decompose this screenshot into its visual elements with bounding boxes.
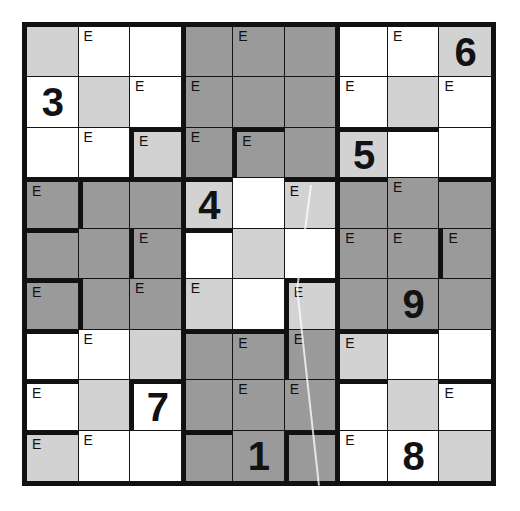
sudoku-cell-r3c2[interactable]: E xyxy=(79,128,131,178)
sudoku-cell-r8c1[interactable]: E xyxy=(27,380,79,430)
puzzle-page: EEE63EEEEEEEE5E4EEEEEEEEEE9EEEEE7EEEEE1E… xyxy=(0,0,520,511)
sudoku-cell-r8c9[interactable]: E xyxy=(439,380,491,430)
cell-mark-r9c2: E xyxy=(84,433,93,447)
cell-mark-r7c2: E xyxy=(84,332,93,346)
sudoku-cell-r4c2[interactable] xyxy=(79,178,131,228)
sudoku-cell-r1c8[interactable]: E xyxy=(388,27,440,77)
sudoku-cell-r1c6[interactable] xyxy=(285,27,337,77)
cell-mark-r5c8: E xyxy=(393,231,402,245)
cell-mark-r4c8: E xyxy=(393,180,402,194)
sudoku-cell-r8c4[interactable] xyxy=(182,380,234,430)
sudoku-cell-r6c5[interactable] xyxy=(233,279,285,329)
sudoku-cell-r3c7[interactable]: 5 xyxy=(336,128,388,178)
sudoku-cell-r8c6[interactable]: E xyxy=(285,380,337,430)
cell-mark-r8c5: E xyxy=(238,382,247,396)
sudoku-cell-r9c9[interactable] xyxy=(439,431,491,481)
sudoku-cell-r7c2[interactable]: E xyxy=(79,330,131,380)
sudoku-cell-r8c3[interactable]: 7 xyxy=(130,380,182,430)
sudoku-cell-r9c1[interactable]: E xyxy=(27,431,79,481)
sudoku-cell-r4c6[interactable]: E xyxy=(285,178,337,228)
sudoku-cell-r9c6[interactable] xyxy=(285,431,337,481)
cell-mark-r1c2: E xyxy=(84,29,93,43)
sudoku-cell-r7c5[interactable]: E xyxy=(233,330,285,380)
sudoku-cell-r5c3[interactable]: E xyxy=(130,229,182,279)
sudoku-cell-r9c7[interactable]: E xyxy=(336,431,388,481)
sudoku-cell-r1c2[interactable]: E xyxy=(79,27,131,77)
cell-mark-r2c3: E xyxy=(135,79,144,93)
sudoku-cell-r3c6[interactable] xyxy=(285,128,337,178)
sudoku-cell-r4c7[interactable] xyxy=(336,178,388,228)
sudoku-cell-r2c3[interactable]: E xyxy=(130,77,182,127)
sudoku-cell-r7c7[interactable]: E xyxy=(336,330,388,380)
cell-mark-r2c9: E xyxy=(444,79,453,93)
sudoku-cell-r4c5[interactable] xyxy=(233,178,285,228)
sudoku-cell-r9c3[interactable] xyxy=(130,431,182,481)
sudoku-cell-r7c3[interactable] xyxy=(130,330,182,380)
sudoku-cell-r5c1[interactable] xyxy=(27,229,79,279)
sudoku-cell-r9c2[interactable]: E xyxy=(79,431,131,481)
sudoku-cell-r5c7[interactable]: E xyxy=(336,229,388,279)
sudoku-cell-r1c5[interactable]: E xyxy=(233,27,285,77)
sudoku-cell-r3c4[interactable]: E xyxy=(182,128,234,178)
sudoku-cell-r6c8[interactable]: 9 xyxy=(388,279,440,329)
sudoku-cell-r3c1[interactable] xyxy=(27,128,79,178)
sudoku-cell-r4c3[interactable] xyxy=(130,178,182,228)
sudoku-cell-r8c7[interactable] xyxy=(336,380,388,430)
sudoku-cell-r7c8[interactable] xyxy=(388,330,440,380)
sudoku-cell-r6c1[interactable]: E xyxy=(27,279,79,329)
sudoku-cell-r8c8[interactable] xyxy=(388,380,440,430)
sudoku-cell-r1c7[interactable] xyxy=(336,27,388,77)
sudoku-cell-r4c8[interactable]: E xyxy=(388,178,440,228)
sudoku-cell-r4c4[interactable]: 4 xyxy=(182,178,234,228)
sudoku-cell-r7c9[interactable] xyxy=(439,330,491,380)
sudoku-cell-r5c6[interactable] xyxy=(285,229,337,279)
sudoku-cell-r7c6[interactable]: E xyxy=(285,330,337,380)
sudoku-cell-r8c2[interactable] xyxy=(79,380,131,430)
sudoku-cell-r5c5[interactable] xyxy=(233,229,285,279)
sudoku-cell-r2c9[interactable]: E xyxy=(439,77,491,127)
sudoku-cell-r1c3[interactable] xyxy=(130,27,182,77)
sudoku-cell-r2c6[interactable] xyxy=(285,77,337,127)
sudoku-cell-r5c2[interactable] xyxy=(79,229,131,279)
sudoku-cell-r3c8[interactable] xyxy=(388,128,440,178)
sudoku-cell-r1c1[interactable] xyxy=(27,27,79,77)
cell-mark-r6c4: E xyxy=(191,281,200,295)
cell-mark-r4c1: E xyxy=(32,184,41,198)
sudoku-cell-r1c9[interactable]: 6 xyxy=(439,27,491,77)
sudoku-cell-r2c2[interactable] xyxy=(79,77,131,127)
cell-mark-r9c1: E xyxy=(32,437,41,451)
sudoku-cell-r7c1[interactable] xyxy=(27,330,79,380)
sudoku-cell-r3c3[interactable]: E xyxy=(130,128,182,178)
sudoku-cell-r3c5[interactable]: E xyxy=(233,128,285,178)
sudoku-cell-r5c4[interactable] xyxy=(182,229,234,279)
sudoku-cell-r1c4[interactable] xyxy=(182,27,234,77)
sudoku-cell-r6c7[interactable] xyxy=(336,279,388,329)
sudoku-cell-r9c4[interactable] xyxy=(182,431,234,481)
sudoku-cell-r2c7[interactable]: E xyxy=(336,77,388,127)
sudoku-cell-r6c4[interactable]: E xyxy=(182,279,234,329)
sudoku-cell-r6c9[interactable] xyxy=(439,279,491,329)
sudoku-cell-r9c5[interactable]: 1 xyxy=(233,431,285,481)
cell-mark-r6c6: E xyxy=(294,285,303,299)
sudoku-cell-r8c5[interactable]: E xyxy=(233,380,285,430)
sudoku-grid[interactable]: EEE63EEEEEEEE5E4EEEEEEEEEE9EEEEE7EEEEE1E… xyxy=(27,27,491,481)
sudoku-cell-r4c9[interactable] xyxy=(439,178,491,228)
sudoku-cell-r6c3[interactable]: E xyxy=(130,279,182,329)
sudoku-cell-r2c4[interactable]: E xyxy=(182,77,234,127)
sudoku-cell-r7c4[interactable] xyxy=(182,330,234,380)
sudoku-cell-r2c8[interactable] xyxy=(388,77,440,127)
sudoku-cell-r2c1[interactable]: 3 xyxy=(27,77,79,127)
cell-mark-r7c7: E xyxy=(345,336,354,350)
sudoku-cell-r5c8[interactable]: E xyxy=(388,229,440,279)
sudoku-cell-r9c8[interactable]: 8 xyxy=(388,431,440,481)
cell-mark-r2c4: E xyxy=(191,79,200,93)
sudoku-cell-r6c2[interactable] xyxy=(79,279,131,329)
sudoku-cell-r4c1[interactable]: E xyxy=(27,178,79,228)
sudoku-board[interactable]: EEE63EEEEEEEE5E4EEEEEEEEEE9EEEEE7EEEEE1E… xyxy=(22,22,496,486)
sudoku-cell-r2c5[interactable] xyxy=(233,77,285,127)
cell-digit-r2c1: 3 xyxy=(42,82,63,122)
sudoku-cell-r3c9[interactable] xyxy=(439,128,491,178)
cell-digit-r1c9: 6 xyxy=(455,32,476,72)
sudoku-cell-r5c9[interactable]: E xyxy=(439,229,491,279)
sudoku-cell-r6c6[interactable]: E xyxy=(285,279,337,329)
